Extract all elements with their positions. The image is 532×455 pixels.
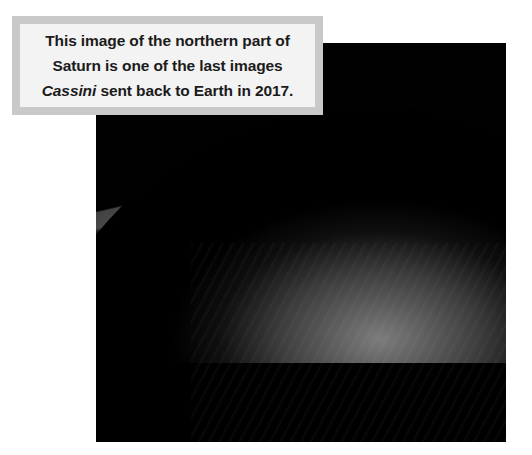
caption-text-part-1: This image of the northern part of Satur… <box>45 32 290 74</box>
caption-text: This image of the northern part of Satur… <box>20 28 315 103</box>
caption-card: This image of the northern part of Satur… <box>12 16 323 115</box>
caption-italic-cassini: Cassini <box>42 82 96 99</box>
figure-root: This image of the northern part of Satur… <box>0 0 532 455</box>
caption-text-part-2: sent back to Earth in 2017. <box>96 82 293 99</box>
caption-card-inner: This image of the northern part of Satur… <box>20 24 315 107</box>
